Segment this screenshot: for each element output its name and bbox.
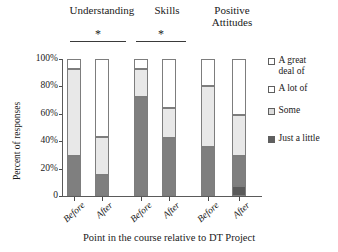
legend-swatch-icon xyxy=(268,86,275,93)
bar-segment-a-lot-of[interactable] xyxy=(95,59,109,137)
significance-line-understanding xyxy=(70,41,126,42)
significance-marker-understanding: * xyxy=(70,30,126,42)
significance-marker-skills: * xyxy=(136,30,186,42)
bar-segment-a-great-deal-of[interactable] xyxy=(232,186,246,196)
y-tick-label: 80% xyxy=(26,81,58,91)
legend: A great deal ofA lot ofSomeJust a little xyxy=(268,55,338,175)
bar-understanding-before[interactable] xyxy=(67,59,81,196)
bar-segment-just-a-little[interactable] xyxy=(95,175,109,196)
bar-segment-just-a-little[interactable] xyxy=(201,147,215,196)
x-tick-mark xyxy=(102,197,103,201)
x-tick-mark xyxy=(239,197,240,201)
bar-skills-before[interactable] xyxy=(134,59,148,196)
bar-segment-a-lot-of[interactable] xyxy=(232,59,246,115)
legend-label: A great deal of xyxy=(279,55,307,76)
bar-segment-just-a-little[interactable] xyxy=(162,138,176,196)
legend-label: Just a little xyxy=(279,133,320,144)
y-axis-line xyxy=(62,59,63,197)
bar-segment-just-a-little[interactable] xyxy=(134,97,148,196)
x-axis-title: Point in the course relative to DT Proje… xyxy=(0,232,338,243)
x-tick-mark xyxy=(74,197,75,201)
legend-item-just-a-little[interactable]: Just a little xyxy=(268,133,320,144)
group-header-positive-attitudes: Positive Attitudes xyxy=(196,5,268,28)
y-tick-label: 0 xyxy=(26,191,58,201)
y-tick-label: 40% xyxy=(26,136,58,146)
asterisk-skills: * xyxy=(136,30,186,39)
x-tick-label-after-5: After xyxy=(215,200,251,234)
bar-segment-a-lot-of[interactable] xyxy=(67,59,81,69)
bar-segment-a-lot-of[interactable] xyxy=(201,59,215,86)
bar-segment-just-a-little[interactable] xyxy=(232,156,246,186)
x-tick-mark xyxy=(169,197,170,201)
bar-understanding-after[interactable] xyxy=(95,59,109,196)
y-tick-label: 60% xyxy=(26,109,58,119)
significance-line-skills xyxy=(136,41,186,42)
x-tick-label-before-4: Before xyxy=(184,200,220,234)
bar-segment-some[interactable] xyxy=(95,137,109,175)
x-tick-mark xyxy=(141,197,142,201)
legend-swatch-icon xyxy=(268,108,275,115)
bar-segment-some[interactable] xyxy=(201,86,215,146)
legend-label: A lot of xyxy=(279,83,308,94)
bar-skills-after[interactable] xyxy=(162,59,176,196)
bar-segment-just-a-little[interactable] xyxy=(67,156,81,196)
y-axis-title: Percent of responses xyxy=(12,102,22,180)
x-axis-line xyxy=(62,196,262,197)
bar-segment-a-lot-of[interactable] xyxy=(162,59,176,108)
y-tick-label: 20% xyxy=(26,164,58,174)
bar-segment-some[interactable] xyxy=(67,69,81,157)
legend-item-a-lot-of[interactable]: A lot of xyxy=(268,83,308,94)
bar-positive-attitudes-after[interactable] xyxy=(232,59,246,196)
group-header-skills: Skills xyxy=(132,5,202,17)
legend-swatch-icon xyxy=(268,136,275,143)
legend-swatch-icon xyxy=(268,58,275,65)
legend-item-a-great-deal-of[interactable]: A great deal of xyxy=(268,55,306,76)
x-tick-mark xyxy=(208,197,209,201)
y-tick-label: 100% xyxy=(26,54,58,64)
bar-segment-a-lot-of[interactable] xyxy=(134,59,148,69)
asterisk-understanding: * xyxy=(70,30,126,39)
bar-segment-some[interactable] xyxy=(162,108,176,138)
bar-segment-some[interactable] xyxy=(232,115,246,156)
legend-label: Some xyxy=(279,105,301,116)
bar-segment-some[interactable] xyxy=(134,69,148,98)
legend-item-some[interactable]: Some xyxy=(268,105,300,116)
bar-positive-attitudes-before[interactable] xyxy=(201,59,215,196)
